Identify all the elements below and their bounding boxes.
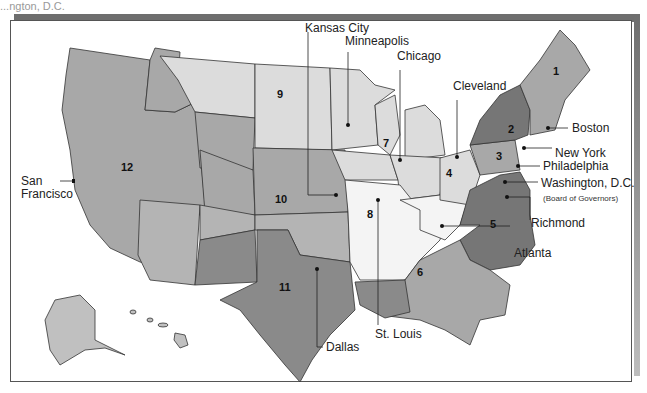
- label-board-of-governors: (Board of Governors): [543, 192, 618, 205]
- atlanta-dot: [440, 224, 444, 228]
- richmond-dot: [505, 195, 509, 199]
- new-york-district-2: [470, 85, 530, 145]
- san-francisco-dot: [72, 179, 75, 183]
- new-york-dot: [522, 146, 526, 150]
- label-richmond: Richmond: [531, 217, 585, 230]
- label-chicago: Chicago: [397, 50, 441, 63]
- district-number-9: 9: [277, 88, 283, 100]
- label-minneapolis: Minneapolis: [345, 35, 409, 48]
- hawaii-island-1: [130, 310, 136, 314]
- district-number-1: 1: [553, 65, 559, 77]
- district-number-11: 11: [279, 281, 291, 293]
- district-number-3: 3: [496, 150, 502, 162]
- label-atlanta: Atlanta: [514, 247, 551, 260]
- district-number-6: 6: [417, 266, 423, 278]
- district-number-7: 7: [383, 137, 389, 149]
- louisiana: [355, 280, 410, 318]
- kansas-city-dot: [334, 193, 338, 197]
- chicago-dot: [398, 158, 402, 162]
- label-washington: Washington, D.C.: [541, 177, 635, 190]
- district-number-4: 4: [446, 167, 452, 179]
- philadelphia-dot: [516, 164, 520, 168]
- label-st-louis: St. Louis: [375, 328, 422, 341]
- new-england-district-1: [520, 30, 590, 135]
- washington-dot: [503, 180, 507, 184]
- cleveland-dot: [455, 155, 459, 159]
- district-number-5: 5: [490, 218, 496, 230]
- hawaii-big-island: [174, 333, 188, 348]
- district-number-10: 10: [275, 193, 287, 205]
- michigan: [405, 105, 445, 160]
- label-cleveland: Cleveland: [453, 80, 506, 93]
- district-number-12: 12: [121, 161, 133, 173]
- label-boston: Boston: [572, 122, 609, 135]
- boston-dot: [546, 126, 550, 130]
- district-number-8: 8: [367, 208, 373, 220]
- label-philadelphia: Philadelphia: [543, 160, 608, 173]
- label-dallas: Dallas: [326, 341, 359, 354]
- arizona: [138, 200, 200, 285]
- nebraska-kansas: [253, 148, 348, 215]
- hawaii-island-2: [147, 318, 153, 322]
- minneapolis-dot: [346, 123, 350, 127]
- district-number-2: 2: [508, 123, 514, 135]
- label-san-francisco-line2: Francisco: [21, 188, 73, 201]
- hawaii-island-3: [158, 323, 168, 327]
- dallas-dot: [315, 267, 319, 271]
- dakotas: [255, 64, 332, 150]
- st-louis-dot: [376, 198, 380, 202]
- alaska: [45, 295, 125, 365]
